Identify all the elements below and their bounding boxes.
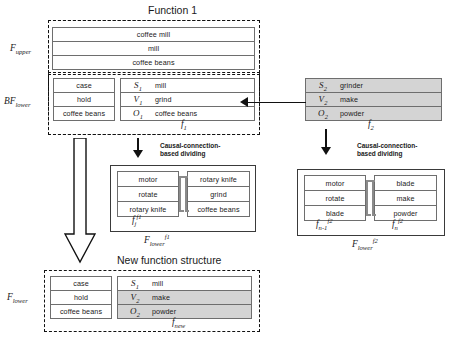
f1-text: grind bbox=[155, 95, 171, 104]
f-lower-f2-right-rows: blade make powder bbox=[374, 175, 437, 221]
cell-text: motor bbox=[139, 175, 158, 184]
cell-text: coffee beans bbox=[197, 205, 239, 214]
f-new-text: mill bbox=[152, 279, 163, 288]
f-lower-f2-left-row: blade bbox=[304, 206, 366, 221]
caption-dividing-left: Causal-connection- based dividing bbox=[160, 142, 220, 159]
f-lower-f1-right-row: grind bbox=[187, 187, 250, 202]
label-fj-f1: fjf1 bbox=[132, 214, 142, 228]
cell-text: rotate bbox=[139, 190, 158, 199]
caption-dividing-right: Causal-connection- based dividing bbox=[357, 142, 417, 159]
arrow-f2-divide-line bbox=[325, 129, 327, 148]
label-f-lower-sub: lower bbox=[13, 297, 28, 304]
f2-row: O2 powder bbox=[305, 107, 442, 121]
cell-text: grind bbox=[210, 190, 226, 199]
f1-symbol: O1 bbox=[121, 108, 155, 120]
cell-text: motor bbox=[326, 179, 345, 188]
arrow-f2-divide-head bbox=[321, 147, 331, 155]
f2-symbol: V2 bbox=[306, 94, 340, 106]
cell-text: case bbox=[76, 81, 92, 90]
label-f-lower: Flower bbox=[7, 293, 28, 304]
f-new-symbol: V2 bbox=[118, 292, 152, 304]
f-lower-f1-right-row: coffee beans bbox=[187, 202, 250, 217]
connector-f1-segment-d bbox=[185, 176, 187, 212]
f-upper-row: coffee mill bbox=[52, 27, 255, 42]
f2-text: make bbox=[340, 95, 358, 104]
f-upper-rows: coffee mill mill coffee beans bbox=[52, 27, 255, 70]
f-new-left-rows: case hold coffee beans bbox=[50, 276, 112, 319]
cell-text: rotate bbox=[326, 194, 345, 203]
cell-text: mill bbox=[148, 44, 159, 53]
page-title-new-structure: New function structure bbox=[117, 254, 221, 266]
cell-text: coffee beans bbox=[60, 307, 102, 316]
f-lower-f1-left-row: rotary knife bbox=[117, 202, 179, 217]
label-bf-lower-base: BF bbox=[4, 96, 15, 106]
f-upper-row: coffee beans bbox=[52, 56, 255, 70]
f-new-text: make bbox=[152, 293, 170, 302]
label-f-lower-f1: Flowerf1 bbox=[144, 234, 170, 248]
f-new-right-row: O2 powder bbox=[117, 305, 252, 319]
f-lower-f2-left-rows: motor rotate blade bbox=[304, 175, 366, 221]
arrow-new-structure bbox=[64, 138, 96, 264]
arrow-f1-divide-head bbox=[133, 150, 143, 158]
cell-text: coffee beans bbox=[132, 58, 174, 67]
f-lower-f2-right-row: make bbox=[374, 191, 437, 206]
f-lower-f1-right-row: rotary knife bbox=[187, 171, 250, 187]
f1-text: coffee beans bbox=[155, 109, 197, 118]
cell-text: coffee beans bbox=[63, 109, 105, 118]
f-lower-f2-right-row: powder bbox=[374, 206, 437, 221]
f2-symbol: S2 bbox=[306, 80, 340, 92]
connector-f2-segment-b bbox=[366, 180, 368, 216]
connector-f2-segment-d bbox=[372, 180, 374, 216]
cell-text: make bbox=[397, 194, 415, 203]
f1-rows: S1 mill V1 grind O1 coffee beans bbox=[120, 78, 255, 121]
label-f-lower-f2: Flowerf2 bbox=[352, 238, 378, 252]
f-new-right-row: V2 make bbox=[117, 291, 252, 305]
f2-row: S2 grinder bbox=[305, 78, 442, 93]
bf-lower-left-row: case bbox=[53, 78, 115, 93]
f-lower-f1-left-rows: motor rotate rotary knife bbox=[117, 171, 179, 217]
f-new-left-row: coffee beans bbox=[50, 305, 112, 319]
f1-text: mill bbox=[155, 81, 166, 90]
cell-text: hold bbox=[77, 95, 91, 104]
f1-row: V1 grind bbox=[120, 93, 255, 107]
label-fn-f2: fnf2 bbox=[392, 218, 403, 232]
f1-symbol: S1 bbox=[121, 80, 155, 92]
f2-text: powder bbox=[340, 109, 364, 118]
f1-row: S1 mill bbox=[120, 78, 255, 93]
f-lower-f1-left-row: rotate bbox=[117, 187, 179, 202]
f-new-right-rows: S1 mill V2 make O2 powder bbox=[117, 276, 252, 319]
page-title-function1: Function 1 bbox=[148, 4, 197, 16]
cell-text: case bbox=[73, 279, 89, 288]
f1-symbol: V1 bbox=[121, 94, 155, 106]
arrow-f2-to-f1-head bbox=[240, 97, 248, 107]
f-new-left-row: hold bbox=[50, 291, 112, 305]
label-bf-lower-sub: lower bbox=[15, 101, 30, 108]
arrow-f2-to-f1-line bbox=[248, 102, 306, 104]
f2-symbol: O2 bbox=[306, 108, 340, 120]
f-lower-f1-right-rows: rotary knife grind coffee beans bbox=[187, 171, 250, 217]
f-new-symbol: O2 bbox=[118, 306, 152, 318]
connector-f1-segment-e bbox=[185, 210, 189, 212]
bf-lower-left-rows: case hold coffee beans bbox=[53, 78, 115, 121]
f-lower-f2-left-row: rotate bbox=[304, 191, 366, 206]
cell-text: hold bbox=[74, 293, 88, 302]
f-lower-f2-left-row: motor bbox=[304, 175, 366, 191]
f-new-right-row: S1 mill bbox=[117, 276, 252, 291]
f2-row: V2 make bbox=[305, 93, 442, 107]
f-lower-f1-left-row: motor bbox=[117, 171, 179, 187]
label-bf-lower: BFlower bbox=[4, 97, 31, 108]
label-f-upper-sub: upper bbox=[16, 48, 31, 55]
cell-text: coffee mill bbox=[137, 30, 170, 39]
bf-lower-left-row: coffee beans bbox=[53, 107, 115, 121]
label-f-upper: Fupper bbox=[10, 44, 31, 55]
f-new-text: powder bbox=[152, 307, 176, 316]
f2-rows: S2 grinder V2 make O2 powder bbox=[305, 78, 442, 121]
label-f1: f1 bbox=[181, 120, 187, 131]
f-upper-row: mill bbox=[52, 42, 255, 56]
f-lower-f2-right-row: blade bbox=[374, 175, 437, 191]
f-new-symbol: S1 bbox=[118, 278, 152, 290]
label-fn1-f2: fn-1f2 bbox=[316, 218, 333, 232]
f2-text: grinder bbox=[340, 81, 363, 90]
f-new-left-row: case bbox=[50, 276, 112, 291]
cell-text: rotary knife bbox=[200, 175, 237, 184]
